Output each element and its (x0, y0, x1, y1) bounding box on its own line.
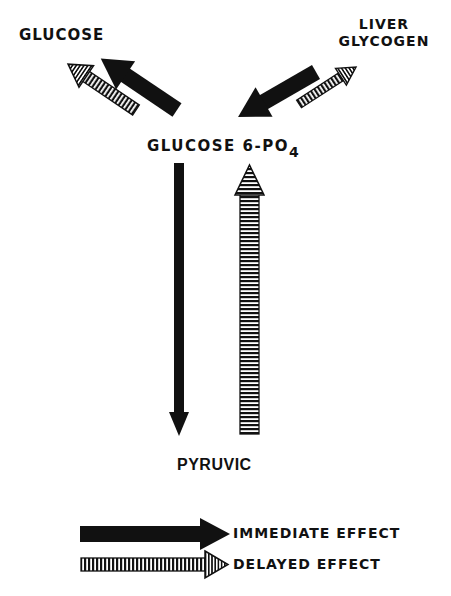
node-liver-glycogen: LIVER GLYCOGEN (338, 16, 430, 50)
legend-immediate-label: IMMEDIATE EFFECT (233, 525, 400, 541)
arrow-g6p-to-pyruvic-immediate (169, 163, 189, 436)
node-liver-glycogen-line1: LIVER (338, 16, 430, 33)
legend-delayed-label: DELAYED EFFECT (233, 556, 381, 572)
node-glucose-6-po4: GLUCOSE 6-PO4 (147, 137, 299, 160)
arrow-pyruvic-to-g6p-delayed (235, 165, 264, 434)
node-pyruvic: PYRUVIC (177, 456, 252, 474)
diagram-canvas (0, 0, 451, 596)
node-glucose-6-po4-text: GLUCOSE 6-PO (147, 137, 289, 155)
node-glucose: GLUCOSE (19, 26, 104, 44)
node-liver-glycogen-line2: GLYCOGEN (338, 33, 430, 50)
legend-solid-arrow-icon (80, 518, 230, 550)
node-glucose-6-po4-subscript: 4 (289, 144, 299, 160)
legend-striped-arrow-icon (81, 551, 228, 578)
